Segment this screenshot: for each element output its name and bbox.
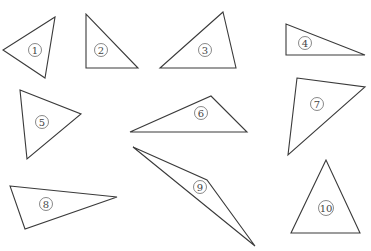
triangle-label: 1 (32, 45, 38, 56)
triangle-1: 1 (3, 17, 55, 78)
triangle-3: 3 (160, 12, 236, 68)
triangle-shape (160, 12, 236, 68)
triangle-shape (130, 96, 247, 132)
triangle-shape (20, 90, 81, 159)
triangle-7: 7 (288, 78, 365, 155)
triangle-label: 10 (320, 203, 333, 214)
triangle-label: 4 (302, 38, 308, 49)
triangle-label: 9 (197, 182, 203, 193)
triangle-6: 6 (130, 96, 247, 132)
triangle-diagram: 12345678910 (0, 0, 371, 251)
triangle-label: 5 (39, 117, 45, 128)
triangle-label: 8 (43, 199, 49, 210)
triangle-shape (288, 78, 365, 155)
triangle-shape (291, 160, 360, 233)
triangles-figure: 12345678910 (0, 0, 371, 251)
triangle-10: 10 (291, 160, 360, 233)
triangle-shape (286, 24, 365, 55)
triangle-shape (10, 186, 117, 229)
triangle-label: 2 (98, 45, 104, 56)
triangle-shape (133, 147, 255, 246)
triangle-5: 5 (20, 90, 81, 159)
triangle-shape (86, 14, 138, 68)
triangle-label: 3 (202, 45, 208, 56)
triangle-label: 6 (198, 108, 204, 119)
triangle-2: 2 (86, 14, 138, 68)
triangle-8: 8 (10, 186, 117, 229)
triangle-9: 9 (133, 147, 255, 246)
triangle-label: 7 (314, 99, 320, 110)
triangle-4: 4 (286, 24, 365, 55)
